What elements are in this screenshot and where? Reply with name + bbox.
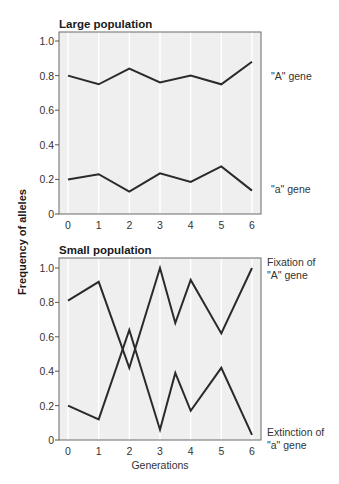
x-axis-label: Generations <box>131 459 188 471</box>
x-tick-label: 6 <box>249 445 255 457</box>
panel-title: Small population <box>59 244 152 256</box>
series-label-a-gene: "a" gene <box>271 183 311 195</box>
y-tick-label: 0.8 <box>39 296 54 308</box>
y-tick-label: 0.2 <box>39 400 54 412</box>
y-axis-ticks: 00.20.40.60.81.0 <box>39 262 59 446</box>
x-tick-label: 0 <box>65 219 71 231</box>
x-axis-ticks: 0123456 <box>65 445 255 457</box>
series-label-extinction-line2: "a" gene <box>267 439 307 451</box>
panel-title: Large population <box>59 18 152 30</box>
x-tick-label: 5 <box>218 219 224 231</box>
x-tick-label: 3 <box>157 219 163 231</box>
x-tick-label: 4 <box>188 219 194 231</box>
x-tick-label: 3 <box>157 445 163 457</box>
y-tick-label: 0.2 <box>39 173 54 185</box>
x-tick-label: 2 <box>126 219 132 231</box>
y-tick-label: 1.0 <box>39 35 54 47</box>
x-tick-label: 6 <box>249 219 255 231</box>
y-tick-label: 0.8 <box>39 70 54 82</box>
y-tick-label: 0.4 <box>39 365 54 377</box>
y-tick-label: 1.0 <box>39 262 54 274</box>
x-tick-label: 1 <box>96 445 102 457</box>
series-label-extinction-line1: Extinction of <box>267 426 324 438</box>
series-label-fixation-line2: "A" gene <box>267 269 308 281</box>
x-tick-label: 4 <box>188 445 194 457</box>
series-label-fixation-line1: Fixation of <box>267 256 316 268</box>
x-tick-label: 0 <box>65 445 71 457</box>
y-tick-label: 0.6 <box>39 331 54 343</box>
x-tick-label: 2 <box>126 445 132 457</box>
y-tick-label: 0 <box>48 434 54 446</box>
y-axis-ticks: 00.20.40.60.81.0 <box>39 35 59 220</box>
y-tick-label: 0.4 <box>39 139 54 151</box>
x-tick-label: 1 <box>96 219 102 231</box>
y-tick-label: 0.6 <box>39 104 54 116</box>
y-tick-label: 0 <box>48 208 54 220</box>
y-axis-label: Frequency of alleles <box>16 189 28 295</box>
small-population-panel: Small population 00.20.40.60.81.0 012345… <box>39 244 324 457</box>
x-axis-ticks: 0123456 <box>65 219 255 231</box>
large-population-panel: Large population 00.20.40.60.81.0 012345… <box>39 18 312 231</box>
allele-frequency-chart: Large population 00.20.40.60.81.0 012345… <box>0 0 339 484</box>
x-tick-label: 5 <box>218 445 224 457</box>
series-label-A-gene: "A" gene <box>271 70 312 82</box>
